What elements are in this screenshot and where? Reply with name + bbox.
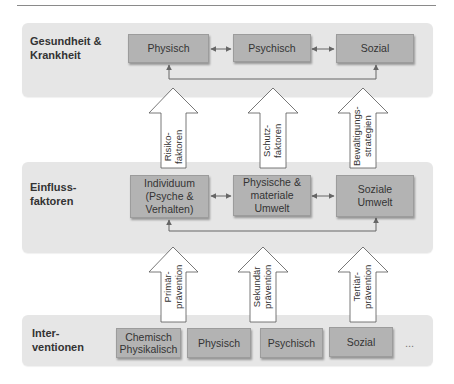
- box-physische-materiale-umwelt: Physische & materiale Umwelt: [233, 175, 311, 216]
- label-tertiaerpraevention: Tertiär- prävention: [351, 265, 373, 309]
- label-schutzfaktoren: Schutz- faktoren: [261, 124, 283, 158]
- label-bewaeltigungsstrategien: Bewältigungs- strategien: [351, 106, 373, 166]
- more-ellipsis: ...: [405, 337, 414, 349]
- feedback-connector-row1: [169, 65, 376, 79]
- label-risikofaktoren: Risiko- faktoren: [162, 130, 184, 164]
- feedback-connector-row2: [169, 218, 376, 231]
- box-physisch: Physisch: [128, 34, 209, 63]
- box-chemisch-physikalisch: Chemisch Physikalisch: [116, 328, 181, 358]
- label-primaerpraevention: Primär- prävention: [162, 265, 184, 309]
- box-soziale-umwelt: Soziale Umwelt: [336, 175, 414, 217]
- box-intervention-psychisch: Psychisch: [260, 328, 323, 358]
- box-intervention-physisch: Physisch: [187, 328, 251, 358]
- box-sozial: Sozial: [336, 34, 414, 63]
- box-psychisch: Psychisch: [233, 34, 311, 62]
- box-individuum: Individuum (Psyche & Verhalten): [130, 175, 209, 218]
- label-sekundaerpraevention: Sekundär prävention: [251, 265, 273, 309]
- box-intervention-sozial: Sozial: [329, 327, 393, 357]
